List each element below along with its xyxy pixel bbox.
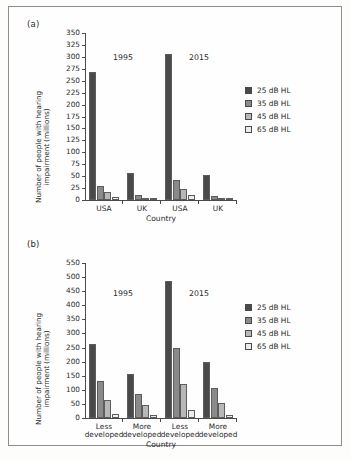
y-tick xyxy=(82,291,85,292)
y-tick xyxy=(82,117,85,118)
legend-label: 25 dB HL xyxy=(257,303,291,312)
legend-swatch xyxy=(245,87,252,94)
bar xyxy=(112,197,119,200)
y-tick-label: 25 xyxy=(71,184,80,191)
legend-label: 35 dB HL xyxy=(257,316,291,325)
x-axis-title: Country xyxy=(146,440,176,449)
y-tick xyxy=(82,140,85,141)
y-tick xyxy=(82,362,85,363)
y-tick-label: 150 xyxy=(66,125,80,132)
figure-page: (a) Number of people with hearing impair… xyxy=(0,0,350,459)
y-tick xyxy=(82,57,85,58)
legend-label: 45 dB HL xyxy=(257,329,291,338)
y-tick xyxy=(82,33,85,34)
bar xyxy=(127,173,134,200)
y-tick-label: 300 xyxy=(66,53,80,60)
bar xyxy=(211,388,218,418)
bar xyxy=(104,192,111,200)
bar xyxy=(188,410,195,418)
x-tick xyxy=(198,201,199,204)
y-tick xyxy=(82,404,85,405)
y-tick-label: 400 xyxy=(66,302,80,309)
y-tick xyxy=(82,93,85,94)
panel-b-y-axis-title-line2: impairment (millions) xyxy=(43,313,51,425)
panel-a-plot-area: 0255075100125150175200225250275300325350 xyxy=(85,33,237,201)
bar xyxy=(203,362,210,418)
bar xyxy=(165,281,172,418)
y-tick xyxy=(82,128,85,129)
y-tick xyxy=(82,376,85,377)
y-tick xyxy=(82,81,85,82)
y-tick xyxy=(82,263,85,264)
x-category-label-line: USA xyxy=(96,205,111,213)
legend-swatch xyxy=(245,304,252,311)
y-tick-label: 100 xyxy=(66,149,80,156)
x-axis-title: Country xyxy=(146,214,176,223)
panel-a-y-axis-title-line2: impairment (millions) xyxy=(43,91,51,203)
x-category-label: USA xyxy=(172,205,187,213)
y-tick-label: 275 xyxy=(66,65,80,72)
bar xyxy=(104,400,111,418)
bar xyxy=(89,344,96,418)
y-tick-label: 200 xyxy=(66,358,80,365)
legend-label: 35 dB HL xyxy=(257,99,291,108)
panel-a-y-axis xyxy=(85,33,86,201)
year-annotation: 1995 xyxy=(113,53,133,62)
bar xyxy=(211,196,218,200)
y-tick-label: 350 xyxy=(66,316,80,323)
bar xyxy=(173,180,180,200)
y-tick-label: 100 xyxy=(66,386,80,393)
panel-a-tag: (a) xyxy=(27,19,39,29)
year-annotation: 2015 xyxy=(189,53,209,62)
panel-b-y-axis xyxy=(85,263,86,419)
bar xyxy=(218,403,225,418)
y-tick-label: 150 xyxy=(66,372,80,379)
bar xyxy=(150,415,157,418)
y-tick-label: 125 xyxy=(66,137,80,144)
x-category-label: USA xyxy=(96,205,111,213)
y-tick-label: 75 xyxy=(71,161,80,168)
x-category-label-line: developed xyxy=(123,431,162,439)
x-category-label: UK xyxy=(213,205,223,213)
panel-b-legend: 25 dB HL35 dB HL45 dB HL65 dB HL xyxy=(245,301,291,353)
legend-item: 45 dB HL xyxy=(245,110,291,123)
panel-a: (a) Number of people with hearing impair… xyxy=(9,7,343,231)
legend-item: 35 dB HL xyxy=(245,97,291,110)
y-tick xyxy=(82,152,85,153)
legend-swatch xyxy=(245,126,252,133)
y-tick-label: 550 xyxy=(66,259,80,266)
bar xyxy=(226,415,233,418)
legend-label: 65 dB HL xyxy=(257,125,291,134)
y-tick-label: 450 xyxy=(66,288,80,295)
y-tick xyxy=(82,200,85,201)
bar xyxy=(142,405,149,418)
y-tick-label: 350 xyxy=(66,29,80,36)
y-tick-label: 0 xyxy=(75,196,80,203)
y-tick-label: 175 xyxy=(66,113,80,120)
x-category-label-line: developed xyxy=(199,431,238,439)
bar xyxy=(97,381,104,418)
bar xyxy=(180,384,187,418)
y-tick xyxy=(82,333,85,334)
y-tick xyxy=(82,69,85,70)
y-tick-label: 0 xyxy=(75,414,80,421)
legend-item: 25 dB HL xyxy=(245,84,291,97)
panel-b-y-axis-title: Number of people with hearing impairment… xyxy=(35,313,52,425)
y-tick-label: 300 xyxy=(66,330,80,337)
bar xyxy=(173,348,180,418)
y-tick-label: 500 xyxy=(66,273,80,280)
x-category-label-line: developed xyxy=(85,431,124,439)
y-tick-label: 225 xyxy=(66,89,80,96)
y-tick-label: 250 xyxy=(66,344,80,351)
legend-item: 25 dB HL xyxy=(245,301,291,314)
bar xyxy=(188,195,195,200)
y-tick xyxy=(82,418,85,419)
bar xyxy=(135,394,142,418)
year-annotation: 2015 xyxy=(189,289,209,298)
legend-item: 65 dB HL xyxy=(245,123,291,136)
legend-swatch xyxy=(245,330,252,337)
bar xyxy=(180,189,187,200)
bar xyxy=(142,198,149,200)
x-tick xyxy=(160,419,161,422)
y-tick xyxy=(82,348,85,349)
